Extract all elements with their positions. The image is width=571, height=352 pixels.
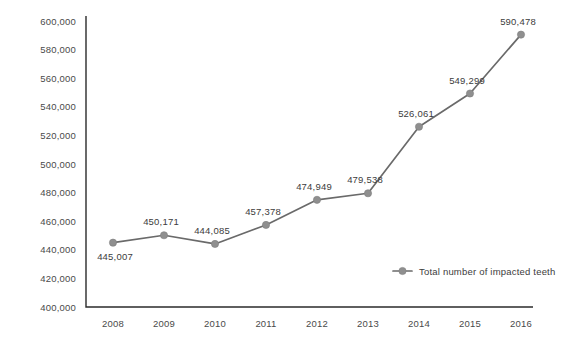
y-axis-tick-label: 400,000 xyxy=(40,302,76,313)
data-point-marker xyxy=(466,90,473,97)
data-point-label: 549,299 xyxy=(449,75,485,86)
y-axis-tick-label: 560,000 xyxy=(40,73,76,84)
y-axis-tick-label: 440,000 xyxy=(40,244,76,255)
data-point-marker xyxy=(211,240,218,247)
data-point-label: 457,378 xyxy=(245,206,281,217)
data-point-label: 450,171 xyxy=(143,216,179,227)
y-axis-tick-label: 480,000 xyxy=(40,187,76,198)
y-axis-tick-label: 500,000 xyxy=(40,159,76,170)
data-point-label: 526,061 xyxy=(398,108,434,119)
chart-canvas: 600,000580,000560,000540,000520,000500,0… xyxy=(0,0,571,352)
x-axis-tick-label: 2008 xyxy=(102,318,124,329)
y-axis-tick-label: 460,000 xyxy=(40,216,76,227)
x-axis-tick-label: 2010 xyxy=(204,318,226,329)
legend-marker-swatch xyxy=(399,267,406,274)
data-point-label: 479,538 xyxy=(347,174,383,185)
y-axis-tick-label: 580,000 xyxy=(40,44,76,55)
x-axis-tick-label: 2015 xyxy=(459,318,481,329)
data-point-marker xyxy=(109,239,116,246)
y-axis-tick-label: 420,000 xyxy=(40,273,76,284)
legend-label: Total number of impacted teeth xyxy=(419,266,555,277)
y-axis-tick-label: 600,000 xyxy=(40,16,76,27)
data-point-marker xyxy=(415,123,422,130)
x-axis-tick-labels: 200820092010201120122013201420152016 xyxy=(102,318,532,329)
y-axis-tick-label: 540,000 xyxy=(40,101,76,112)
y-axis-tick-label: 520,000 xyxy=(40,130,76,141)
x-axis-tick-label: 2013 xyxy=(357,318,379,329)
x-axis-tick-label: 2016 xyxy=(510,318,532,329)
x-axis-tick-label: 2009 xyxy=(153,318,175,329)
x-axis-tick-label: 2014 xyxy=(408,318,430,329)
data-point-marker xyxy=(262,221,269,228)
data-point-marker xyxy=(364,190,371,197)
data-point-label: 444,085 xyxy=(194,225,230,236)
data-point-marker xyxy=(517,31,524,38)
data-point-label: 474,949 xyxy=(296,181,332,192)
data-point-marker xyxy=(313,196,320,203)
data-point-marker xyxy=(160,232,167,239)
line-chart: 600,000580,000560,000540,000520,000500,0… xyxy=(0,0,571,352)
x-axis-tick-label: 2011 xyxy=(255,318,276,329)
x-axis-tick-label: 2012 xyxy=(306,318,328,329)
data-point-label: 445,007 xyxy=(97,251,133,262)
data-point-label: 590,478 xyxy=(500,16,536,27)
